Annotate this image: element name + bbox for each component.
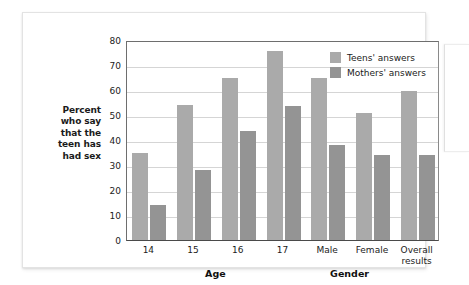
y-axis-tick-label: 40	[101, 137, 121, 146]
x-axis-category-label: Overallresults	[394, 245, 439, 267]
bar	[240, 131, 256, 240]
bar	[132, 153, 148, 241]
bar	[195, 170, 211, 240]
y-axis-tick-label: 20	[101, 187, 121, 196]
bar	[222, 78, 238, 241]
y-axis-caption: Percentwho saythat theteen hashad sex	[33, 105, 101, 162]
legend-item: Mothers' answers	[330, 65, 426, 80]
y-axis-tick-labels: 01020304050607080	[101, 41, 121, 241]
bar	[177, 105, 193, 240]
x-axis-category-label-line: 14	[126, 245, 171, 256]
y-axis-caption-line: Percent	[33, 105, 101, 116]
y-axis-caption-line: that the	[33, 128, 101, 139]
y-axis-caption-line: teen has	[33, 139, 101, 150]
x-axis-group-label: Age	[175, 268, 255, 279]
x-axis-category-label: Male	[305, 245, 350, 256]
x-axis-category-label-line: 17	[260, 245, 305, 256]
y-axis-caption-line: who say	[33, 116, 101, 127]
x-axis-category-label-line: 16	[215, 245, 260, 256]
bar	[267, 51, 283, 240]
y-axis-tick-label: 80	[101, 37, 121, 46]
x-axis-category-label: Female	[350, 245, 395, 256]
legend-item: Teens' answers	[330, 50, 426, 65]
y-axis-tick-label: 70	[101, 62, 121, 71]
figure-card: Percentwho saythat theteen hashad sex 01…	[22, 12, 426, 268]
x-axis-category-labels: 14151617MaleFemaleOverallresults	[126, 245, 439, 269]
legend-label: Mothers' answers	[347, 68, 426, 78]
x-axis-category-label-line: Overall	[394, 245, 439, 256]
x-axis-category-label: 14	[126, 245, 171, 256]
bar	[401, 91, 417, 240]
x-axis-category-label: 16	[215, 245, 260, 256]
y-axis-tick-label: 50	[101, 112, 121, 121]
x-axis-category-label-line: 15	[171, 245, 216, 256]
bar	[285, 106, 301, 240]
bar	[329, 145, 345, 240]
bar	[311, 78, 327, 241]
x-axis-category-label-line: Male	[305, 245, 350, 256]
adjacent-page-edge	[444, 44, 469, 152]
x-axis-category-label-line: results	[394, 256, 439, 267]
x-axis-group-label: Gender	[310, 268, 390, 279]
bar	[356, 113, 372, 241]
chart-legend: Teens' answersMothers' answers	[326, 48, 432, 83]
bar	[419, 155, 435, 240]
y-axis-tick-label: 10	[101, 212, 121, 221]
teens-swatch	[330, 52, 341, 63]
x-axis-category-label-line: Female	[350, 245, 395, 256]
y-axis-tick-label: 30	[101, 162, 121, 171]
y-axis-tick-label: 60	[101, 87, 121, 96]
y-axis-caption-line: had sex	[33, 151, 101, 162]
mothers-swatch	[330, 67, 341, 78]
bar	[374, 155, 390, 240]
plot-wrapper: 01020304050607080 Teens' answersMothers'…	[101, 41, 439, 241]
plot-area: Teens' answersMothers' answers	[126, 41, 439, 241]
legend-label: Teens' answers	[347, 53, 415, 63]
x-axis-category-label: 15	[171, 245, 216, 256]
bar	[150, 205, 166, 240]
x-axis-category-label: 17	[260, 245, 305, 256]
y-axis-tick-label: 0	[101, 237, 121, 246]
